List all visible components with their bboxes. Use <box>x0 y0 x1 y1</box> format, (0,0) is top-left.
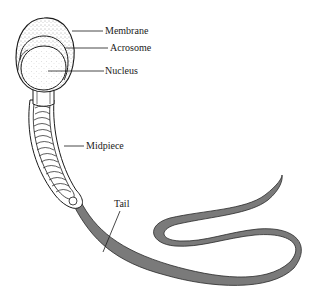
nucleus-shape <box>21 46 66 90</box>
nucleus-label: Nucleus <box>105 66 138 76</box>
head <box>16 18 74 92</box>
midpiece-label: Midpiece <box>86 141 124 151</box>
sperm-diagram: Membrane Acrosome Nucleus Midpiece Tail <box>0 0 316 305</box>
midpiece <box>29 100 83 208</box>
sperm-illustration <box>0 0 316 305</box>
tail-label: Tail <box>114 199 129 209</box>
membrane-label: Membrane <box>105 26 148 36</box>
acrosome-label: Acrosome <box>110 43 151 53</box>
tail <box>74 175 301 285</box>
